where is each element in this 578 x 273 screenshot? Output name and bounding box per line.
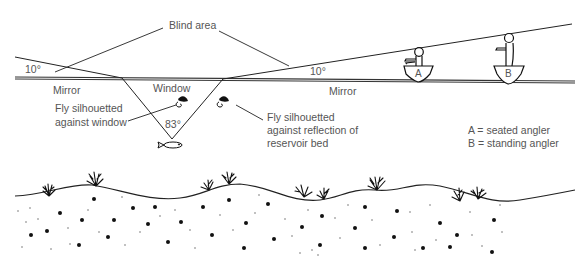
- water-surface: [15, 77, 575, 83]
- window-label: Window: [153, 82, 190, 95]
- boat-b-label: B: [505, 67, 512, 80]
- boat-a-label: A: [415, 67, 422, 80]
- blind-area-label: Blind area: [169, 19, 216, 32]
- bed-stones: [29, 197, 496, 254]
- fly-window-line-2: against window: [55, 116, 127, 129]
- blind-area-leader-left: [55, 28, 163, 72]
- legend-b: B = standing angler: [468, 137, 559, 150]
- window-angle-label: 83°: [165, 118, 181, 131]
- fish-icon: [158, 142, 182, 148]
- mirror-right-label: Mirror: [329, 85, 356, 98]
- fly-reflection-line-1: Fly silhouetted: [267, 111, 335, 124]
- reservoir-bed: [15, 184, 575, 201]
- fly-icon: [217, 96, 229, 107]
- fly-window-line-1: Fly silhouetted: [55, 102, 123, 115]
- fly-reflection-leader: [236, 105, 263, 120]
- angle-left-label: 10°: [25, 63, 41, 76]
- fly-reflection-line-3: reservoir bed: [267, 137, 328, 150]
- legend-a: A = seated angler: [468, 124, 550, 137]
- angle-right-label: 10°: [310, 65, 326, 78]
- mirror-left-label: Mirror: [53, 84, 80, 97]
- fly-icon: [176, 96, 188, 107]
- bed-specks: [17, 194, 502, 255]
- blind-area-leader-right: [219, 31, 289, 66]
- weed-icon: [43, 172, 486, 201]
- fly-reflection-line-2: against reflection of: [267, 124, 358, 137]
